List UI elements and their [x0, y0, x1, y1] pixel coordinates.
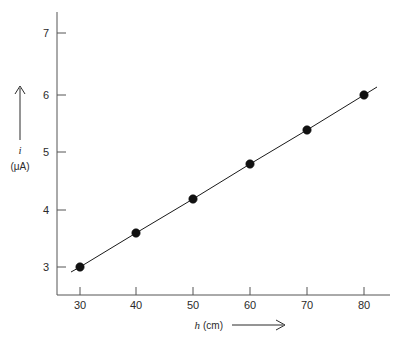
y-axis-label-group: i (μA)	[10, 86, 29, 172]
x-tick-label-40: 40	[130, 299, 142, 311]
data-point-1	[76, 263, 84, 271]
line-chart: 7 6 5 4 3 30 40 50 60 70 80	[0, 0, 397, 337]
data-point-5	[303, 126, 311, 134]
y-axis-tick-labels: 7 6 5 4 3	[43, 27, 49, 273]
x-axis-label-symbol: h	[195, 319, 201, 331]
y-tick-label-5: 5	[43, 146, 49, 158]
y-axis-label-units: (μA)	[10, 161, 29, 172]
data-point-3	[189, 195, 197, 203]
y-tick-label-7: 7	[43, 27, 49, 39]
x-axis-label-group: h (cm)	[195, 319, 286, 331]
data-point-4	[246, 160, 254, 168]
data-line	[71, 87, 377, 272]
y-axis-label-symbol: i	[18, 144, 21, 156]
x-tick-label-30: 30	[74, 299, 86, 311]
data-point-6	[360, 91, 368, 99]
x-axis-tick-labels: 30 40 50 60 70 80	[74, 299, 370, 311]
data-point-2	[132, 229, 140, 237]
x-tick-label-60: 60	[244, 299, 256, 311]
y-tick-label-6: 6	[43, 89, 49, 101]
x-tick-label-80: 80	[358, 299, 370, 311]
x-axis-ticks	[80, 287, 364, 295]
y-tick-label-3: 3	[43, 261, 49, 273]
chart-container: 7 6 5 4 3 30 40 50 60 70 80	[0, 0, 397, 337]
x-axis-label-units: (cm)	[203, 320, 223, 331]
y-axis-ticks	[57, 33, 66, 267]
x-tick-label-70: 70	[301, 299, 313, 311]
x-tick-label-50: 50	[187, 299, 199, 311]
y-tick-label-4: 4	[43, 204, 49, 216]
